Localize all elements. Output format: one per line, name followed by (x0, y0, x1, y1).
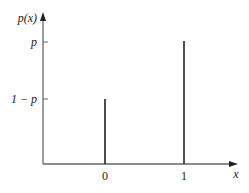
xtick-label-1: 1 (181, 169, 187, 183)
y-axis-arrow-icon (40, 12, 46, 21)
bernoulli-pmf-chart: p(x) p 1 − p 0 1 x (0, 0, 249, 193)
x-axis-label: x (232, 167, 239, 181)
y-axis-label: p(x) (17, 11, 37, 25)
xtick-label-0: 0 (102, 169, 108, 183)
ytick-label-p: p (30, 35, 37, 49)
ytick-label-1-minus-p: 1 − p (11, 92, 37, 106)
